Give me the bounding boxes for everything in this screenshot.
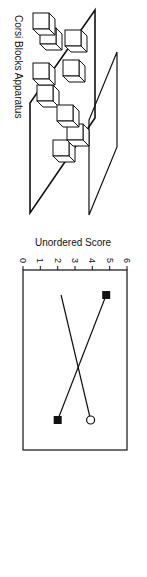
svg-text:1: 1 [35,258,45,263]
blocks [33,13,89,162]
apparatus-caption: Corsi Blocks Apparatus [13,15,24,118]
svg-text:6: 6 [122,258,132,263]
y-axis [23,266,127,270]
svg-text:5: 5 [105,258,115,263]
wms-marker-digit-span [102,291,110,299]
svg-text:4: 4 [87,258,97,263]
svg-text:0: 0 [18,258,28,263]
line-chart: 0 1 2 3 4 5 6 Unordered Score [18,237,132,450]
figure-canvas: Corsi Blocks Apparatus 0 1 2 3 4 5 [0,0,147,577]
y-axis-label: Unordered Score [35,237,112,248]
figure: Corsi Blocks Apparatus 0 1 2 3 4 5 [0,0,147,577]
svg-text:2: 2 [53,258,63,263]
svg-text:3: 3 [70,258,80,263]
plot-area [23,270,127,450]
wms-marker-corsi-blocks [54,416,62,424]
y-tick-labels: 0 1 2 3 4 5 6 [18,258,132,263]
dns-marker-corsi-blocks [87,416,95,424]
